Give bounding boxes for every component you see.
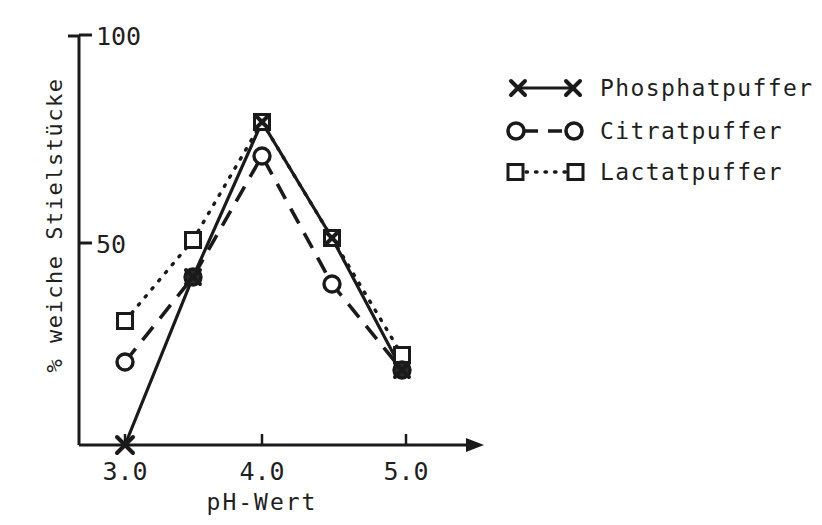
legend-marker-square-right [568, 165, 583, 180]
legend-label-citratpuffer: Citratpuffer [600, 118, 783, 144]
chart-svg: 100 50 3.0 4.0 5.0 pH-Wert % weiche Stie… [0, 0, 822, 525]
chart-legend: Phosphatpuffer Citratpuffer Lactatpuffer [508, 75, 813, 185]
x-axis-title: pH-Wert [207, 489, 318, 515]
series-markers-citratpuffer [117, 148, 410, 378]
data-point-lactat-ph3-5 [186, 233, 201, 248]
data-point-citrat-ph3-0 [117, 354, 133, 370]
legend-marker-circle-right [566, 123, 582, 139]
y-tick-label-100: 100 [96, 22, 141, 51]
series-line-citratpuffer [125, 156, 402, 370]
legend-label-lactatpuffer: Lactatpuffer [600, 159, 783, 185]
x-axis-arrowhead [466, 438, 484, 452]
y-tick-label-50: 50 [96, 230, 126, 259]
x-tick-label-4-0: 4.0 [239, 457, 284, 486]
legend-marker-square-left [508, 165, 523, 180]
data-point-lactat-ph5-0 [395, 348, 410, 363]
legend-item-phosphatpuffer: Phosphatpuffer [511, 75, 813, 101]
legend-item-citratpuffer: Citratpuffer [508, 118, 783, 144]
legend-marker-circle-left [508, 123, 524, 139]
legend-item-lactatpuffer: Lactatpuffer [508, 159, 783, 185]
series-markers-phosphatpuffer [117, 115, 409, 453]
x-tick-label-3-0: 3.0 [102, 457, 147, 486]
x-tick-label-5-0: 5.0 [383, 457, 428, 486]
series-lines-group [125, 122, 402, 445]
axes-group [68, 35, 484, 452]
data-point-citrat-ph4-5 [324, 276, 340, 292]
chart-figure: 100 50 3.0 4.0 5.0 pH-Wert % weiche Stie… [0, 0, 822, 525]
tick-labels-group: 100 50 3.0 4.0 5.0 [96, 22, 429, 486]
data-point-lactat-ph3-0 [118, 314, 133, 329]
legend-label-phosphatpuffer: Phosphatpuffer [600, 75, 813, 101]
data-point-citrat-ph4-0 [254, 148, 270, 164]
y-axis-title: % weiche Stielstücke [42, 78, 67, 373]
